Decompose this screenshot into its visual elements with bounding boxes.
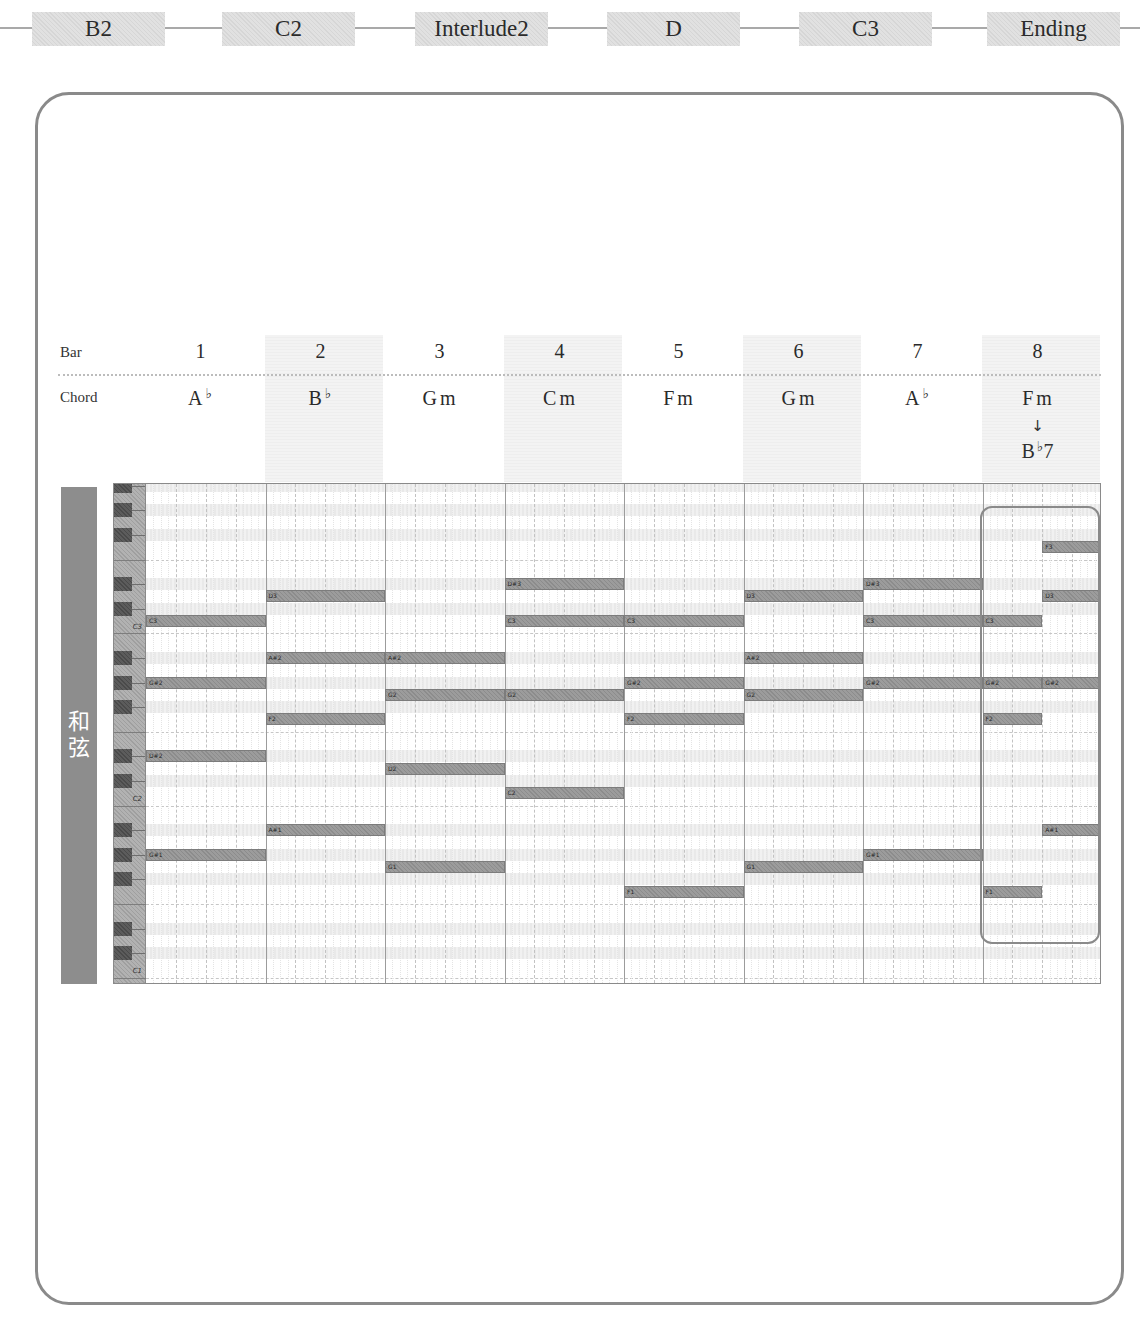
black-key <box>114 823 132 837</box>
key-tick <box>132 953 145 954</box>
subdivision-line <box>721 484 722 983</box>
subdivision-line <box>490 484 491 983</box>
subdivision-line <box>557 484 558 983</box>
subdivision-line <box>729 484 730 983</box>
subdivision-line <box>945 484 946 983</box>
subdivision-line <box>885 484 886 983</box>
beat-line <box>415 484 416 983</box>
octave-label: C2 <box>133 795 142 803</box>
key-separator <box>114 732 146 733</box>
note-block: A#1 <box>266 824 386 836</box>
subdivision-line <box>661 484 662 983</box>
bar-number: 5 <box>619 340 738 363</box>
note-label: G#1 <box>149 851 163 858</box>
bar-line <box>505 484 506 983</box>
beat-line <box>594 484 595 983</box>
note-label: A#2 <box>747 654 760 661</box>
chord-row-label: Chord <box>60 389 98 406</box>
beat-line <box>355 484 356 983</box>
beat-line <box>534 484 535 983</box>
note-label: G#1 <box>866 851 880 858</box>
note-label: G#2 <box>866 679 880 686</box>
subdivision-line <box>960 484 961 983</box>
key-tick <box>132 781 145 782</box>
key-tick <box>132 707 145 708</box>
subdivision-line <box>796 484 797 983</box>
key-separator <box>114 904 146 905</box>
subdivision-line <box>572 484 573 983</box>
bar-8-highlight-frame <box>980 506 1100 944</box>
subdivision-line <box>587 484 588 983</box>
key-separator <box>114 560 146 561</box>
key-tick <box>132 658 145 659</box>
section-c3: C3 <box>799 12 932 46</box>
chord-name: A♭ <box>858 387 977 410</box>
chord-suffix: m <box>1036 387 1053 409</box>
chord-root: B <box>309 387 323 409</box>
subdivision-line <box>841 484 842 983</box>
bar-number: 6 <box>739 340 858 363</box>
subdivision-line <box>848 484 849 983</box>
flat-accidental: ♭ <box>1037 438 1044 454</box>
note-block: C3 <box>146 615 266 627</box>
subdivision-line <box>736 484 737 983</box>
subdivision-line <box>512 484 513 983</box>
note-block: G2 <box>385 689 505 701</box>
subdivision-line <box>460 484 461 983</box>
key-tick <box>132 683 145 684</box>
note-block: C3 <box>505 615 625 627</box>
note-block: G#1 <box>146 849 266 861</box>
note-label: C3 <box>627 617 635 624</box>
subdivision-line <box>497 484 498 983</box>
subdivision-line <box>915 484 916 983</box>
subdivision-line <box>751 484 752 983</box>
beat-line <box>206 484 207 983</box>
bar-number: 4 <box>500 340 619 363</box>
note-block: D#3 <box>505 578 625 590</box>
piano-keyboard: C3C2C1 <box>114 484 146 983</box>
note-block: F2 <box>266 713 386 725</box>
note-label: A#2 <box>388 654 401 661</box>
black-key <box>114 749 132 763</box>
subdivision-line <box>288 484 289 983</box>
subdivision-line <box>168 484 169 983</box>
subdivision-line <box>818 484 819 983</box>
subdivision-line <box>706 484 707 983</box>
bar-row-label: Bar <box>60 344 82 361</box>
chord-root: A <box>188 387 203 409</box>
bar-number: 8 <box>978 340 1097 363</box>
note-block: G2 <box>505 689 625 701</box>
section-b2: B2 <box>32 12 165 46</box>
beat-line <box>714 484 715 983</box>
subdivision-line <box>542 484 543 983</box>
subdivision-line <box>310 484 311 983</box>
beat-line <box>475 484 476 983</box>
subdivision-line <box>519 484 520 983</box>
subdivision-line <box>318 484 319 983</box>
subdivision-line <box>631 484 632 983</box>
black-key <box>114 676 132 690</box>
note-block: G2 <box>744 689 864 701</box>
key-tick <box>132 584 145 585</box>
note-label: G2 <box>388 691 396 698</box>
note-label: D3 <box>269 592 277 599</box>
subdivision-line <box>609 484 610 983</box>
note-label: C2 <box>508 789 516 796</box>
subdivision-line <box>333 484 334 983</box>
subdivision-line <box>303 484 304 983</box>
note-label: G2 <box>508 691 516 698</box>
subdivision-line <box>870 484 871 983</box>
beat-line <box>325 484 326 983</box>
beat-line <box>654 484 655 983</box>
chord-name: B♭ <box>261 387 380 410</box>
black-key <box>114 922 132 936</box>
subdivision-line <box>811 484 812 983</box>
piano-roll: C3C2C1 C3G#2D#2G#1D3A#2F2A#1A#2G2D2G1D#3… <box>113 483 1101 984</box>
subdivision-line <box>482 484 483 983</box>
black-key <box>114 700 132 714</box>
chord-name: Gm <box>380 387 499 410</box>
chord-suffix: m <box>799 387 816 409</box>
section-interlude2: Interlude2 <box>415 12 548 46</box>
beat-line <box>176 484 177 983</box>
subdivision-line <box>370 484 371 983</box>
